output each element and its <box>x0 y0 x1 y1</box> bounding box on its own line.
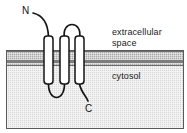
c-terminus-label: C <box>85 104 92 114</box>
n-terminal-tail <box>33 13 49 37</box>
transmembrane-helix-3 <box>75 36 84 84</box>
membrane-protein-topology-figure: N C extracellular space cytosol <box>0 0 187 133</box>
protein-drawing <box>0 0 187 133</box>
n-terminus-label: N <box>22 6 29 16</box>
cytosol-label: cytosol <box>112 71 141 82</box>
extracellular-space-label: extracellular space <box>112 27 162 49</box>
cytosolic-loop-1-2 <box>49 84 65 98</box>
transmembrane-helix-2 <box>60 36 69 84</box>
c-terminal-tail <box>80 84 89 101</box>
transmembrane-helix-1 <box>44 36 53 84</box>
